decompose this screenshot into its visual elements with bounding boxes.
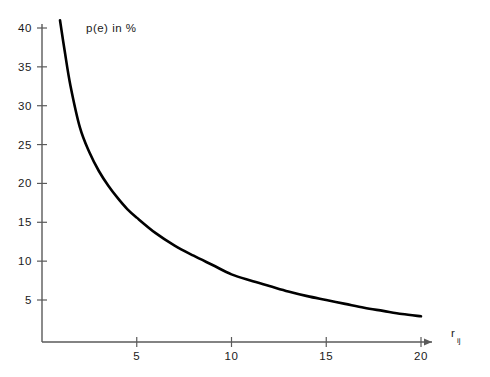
x-axis-ticks: 5101520 (133, 337, 428, 362)
y-axis-tick-label: 5 (25, 294, 32, 306)
x-axis-arrow-icon (424, 339, 432, 346)
y-axis-tick-label: 15 (18, 216, 32, 228)
x-axis-tick-label: 10 (225, 350, 239, 362)
y-axis-title: p(e) in % (86, 22, 137, 34)
x-axis-title: r (451, 327, 455, 339)
x-axis-title-subscript: ij (457, 336, 461, 345)
y-axis-tick-label: 25 (18, 139, 32, 151)
y-axis-tick-label: 30 (18, 100, 32, 112)
plot-area: 510152025303540 5101520 p(e) in % r ij (0, 0, 490, 377)
data-curve-series-0 (60, 20, 421, 316)
y-axis-tick-label: 20 (18, 177, 32, 189)
chart-figure: 510152025303540 5101520 p(e) in % r ij (0, 0, 490, 377)
x-axis-tick-label: 15 (319, 350, 333, 362)
y-axis-tick-label: 40 (18, 22, 32, 34)
y-axis-tick-label: 10 (18, 255, 32, 267)
y-axis-tick-label: 35 (18, 61, 32, 73)
x-axis-tick-label: 5 (133, 350, 140, 362)
x-axis-tick-label: 20 (414, 350, 428, 362)
